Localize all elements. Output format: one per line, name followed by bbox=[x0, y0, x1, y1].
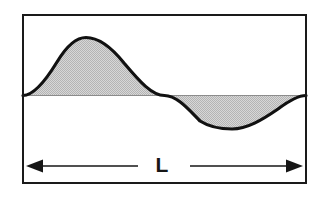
wave-diagram-figure: L bbox=[0, 0, 324, 197]
length-label: L bbox=[0, 152, 324, 178]
